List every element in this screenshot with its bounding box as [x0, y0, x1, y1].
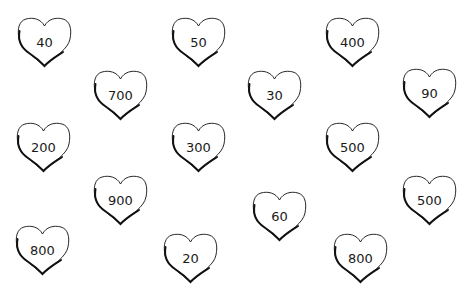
heart-card: 300 — [171, 122, 226, 172]
heart-card: 20 — [163, 233, 218, 283]
heart-number: 400 — [325, 36, 380, 49]
heart-card: 50 — [171, 17, 226, 67]
heart-number: 700 — [93, 89, 148, 102]
heart-number: 50 — [171, 36, 226, 49]
heart-number: 60 — [252, 210, 307, 223]
heart-number: 800 — [333, 252, 388, 265]
heart-card: 900 — [93, 175, 148, 225]
heart-number: 300 — [171, 141, 226, 154]
heart-card: 60 — [252, 191, 307, 241]
heart-number: 500 — [402, 194, 457, 207]
heart-card: 500 — [402, 175, 457, 225]
heart-number: 30 — [247, 89, 302, 102]
heart-card: 800 — [15, 225, 70, 275]
heart-card: 30 — [247, 70, 302, 120]
heart-card: 40 — [17, 17, 72, 67]
heart-card: 800 — [333, 233, 388, 283]
heart-card: 700 — [93, 70, 148, 120]
heart-card: 200 — [16, 122, 71, 172]
heart-number: 90 — [402, 87, 457, 100]
heart-number: 200 — [16, 141, 71, 154]
heart-card: 400 — [325, 17, 380, 67]
heart-number: 20 — [163, 252, 218, 265]
heart-number: 800 — [15, 244, 70, 257]
heart-number: 900 — [93, 194, 148, 207]
heart-number: 40 — [17, 36, 72, 49]
heart-card: 90 — [402, 68, 457, 118]
heart-number: 500 — [325, 141, 380, 154]
heart-card: 500 — [325, 122, 380, 172]
